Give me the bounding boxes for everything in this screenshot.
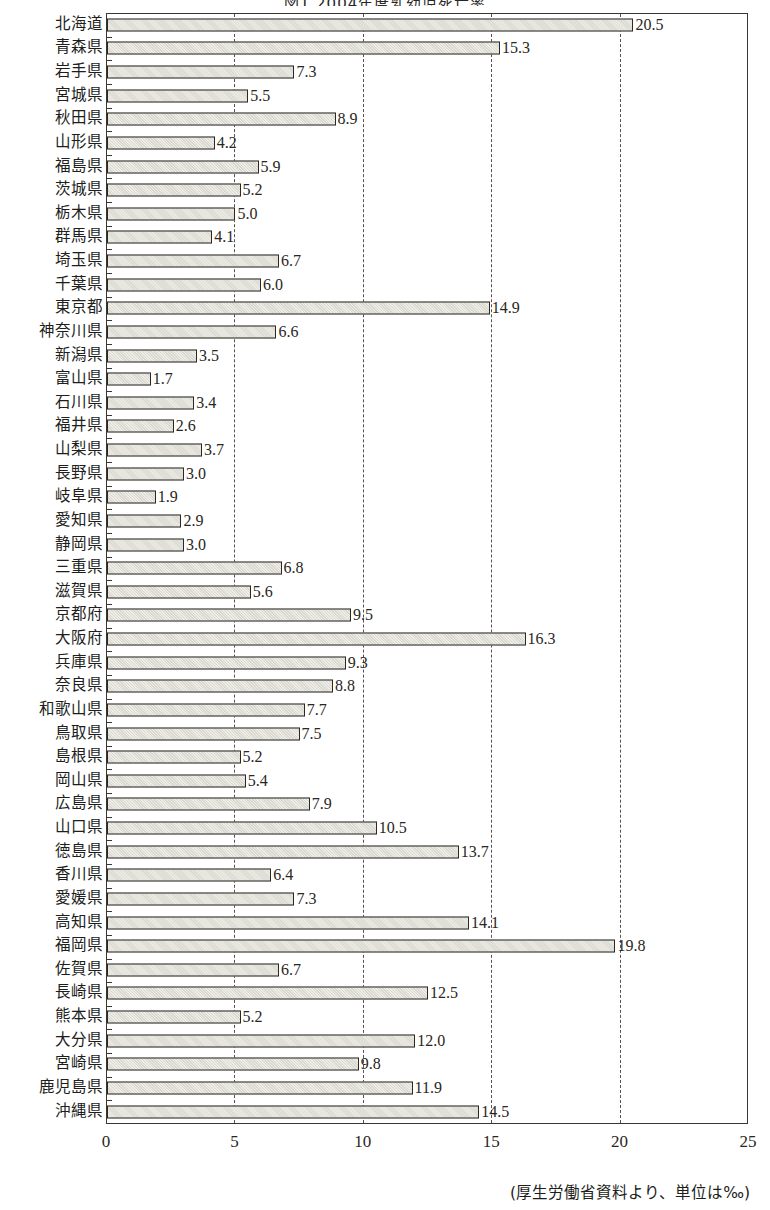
bar (107, 703, 305, 716)
category-label: 福島県 (55, 159, 103, 175)
category-label: 岩手県 (55, 64, 103, 80)
bar (107, 491, 156, 504)
table-row: 鳥取県7.5 (0, 722, 770, 746)
category-label: 岡山県 (55, 773, 103, 789)
axis-tick (106, 888, 112, 889)
table-row: 石川県3.4 (0, 391, 770, 415)
table-row: 岩手県7.3 (0, 60, 770, 84)
category-label: 静岡県 (55, 537, 103, 553)
bar-value-label: 6.4 (273, 867, 293, 883)
bar (107, 302, 490, 315)
category-label: 山梨県 (55, 442, 103, 458)
table-row: 神奈川県6.6 (0, 320, 770, 344)
chart-title: 図1 2004年度乳幼児死亡率 (0, 0, 770, 6)
table-row: 三重県6.8 (0, 556, 770, 580)
axis-tick (106, 1100, 112, 1101)
table-row: 愛媛県7.3 (0, 887, 770, 911)
bar-value-label: 5.2 (243, 182, 263, 198)
bar-value-label: 12.5 (430, 985, 458, 1001)
table-row: 滋賀県5.6 (0, 580, 770, 604)
table-row: 香川県6.4 (0, 864, 770, 888)
bar (107, 1105, 479, 1118)
bar (107, 1058, 359, 1071)
category-label: 東京都 (55, 301, 103, 317)
table-row: 静岡県3.0 (0, 533, 770, 557)
bar-value-label: 5.4 (248, 772, 268, 788)
bar-value-label: 19.8 (617, 938, 645, 954)
category-label: 熊本県 (55, 1009, 103, 1025)
bar-value-label: 13.7 (461, 843, 489, 859)
bar-value-label: 4.2 (217, 135, 237, 151)
table-row: 大分県12.0 (0, 1029, 770, 1053)
axis-tick (106, 273, 112, 274)
bar (107, 633, 526, 646)
axis-tick (106, 462, 112, 463)
bar-value-label: 3.4 (196, 394, 216, 410)
axis-tick (106, 226, 112, 227)
category-label: 長野県 (55, 466, 103, 482)
axis-tick (106, 131, 112, 132)
table-row: 千葉県6.0 (0, 273, 770, 297)
bar (107, 1034, 415, 1047)
table-row: 佐賀県6.7 (0, 958, 770, 982)
bar (107, 373, 151, 386)
category-label: 広島県 (55, 797, 103, 813)
bar-value-label: 9.8 (361, 1056, 381, 1072)
bar (107, 680, 333, 693)
bar-value-label: 3.0 (186, 536, 206, 552)
axis-tick (106, 604, 112, 605)
bar-value-label: 4.1 (214, 229, 234, 245)
bar (107, 42, 500, 55)
bar-value-label: 7.3 (296, 64, 316, 80)
category-label: 新潟県 (55, 348, 103, 364)
table-row: 広島県7.9 (0, 793, 770, 817)
category-label: 愛媛県 (55, 891, 103, 907)
table-row: 群馬県4.1 (0, 226, 770, 250)
table-row: 兵庫県9.3 (0, 651, 770, 675)
table-row: 熊本県5.2 (0, 1005, 770, 1029)
table-row: 岐阜県1.9 (0, 486, 770, 510)
bar-value-label: 2.9 (183, 513, 203, 529)
table-row: 埼玉県6.7 (0, 249, 770, 273)
table-row: 沖縄県14.5 (0, 1100, 770, 1124)
bar-value-label: 5.9 (261, 158, 281, 174)
bar-value-label: 7.3 (296, 891, 316, 907)
bar (107, 798, 310, 811)
bar (107, 1011, 241, 1024)
axis-tick (106, 320, 112, 321)
bar-value-label: 11.9 (415, 1080, 442, 1096)
axis-tick (106, 509, 112, 510)
bar (107, 774, 246, 787)
bar (107, 609, 351, 622)
table-row: 山形県4.2 (0, 131, 770, 155)
bar (107, 160, 259, 173)
axis-tick (106, 84, 112, 85)
axis-tick (106, 935, 112, 936)
axis-tick (106, 178, 112, 179)
category-label: 山口県 (55, 820, 103, 836)
bar-value-label: 1.7 (153, 371, 173, 387)
axis-tick (106, 155, 112, 156)
table-row: 山梨県3.7 (0, 438, 770, 462)
category-label: 宮城県 (55, 88, 103, 104)
table-row: 秋田県8.9 (0, 108, 770, 132)
axis-tick (106, 1077, 112, 1078)
category-label: 鹿児島県 (39, 1080, 103, 1096)
category-label: 大阪府 (55, 631, 103, 647)
table-row: 北海道20.5 (0, 13, 770, 37)
table-row: 鹿児島県11.9 (0, 1076, 770, 1100)
bar (107, 562, 282, 575)
category-label: 北海道 (55, 17, 103, 33)
category-label: 山形県 (55, 135, 103, 151)
bar (107, 1081, 413, 1094)
bar (107, 585, 251, 598)
category-label: 奈良県 (55, 679, 103, 695)
bar (107, 727, 300, 740)
bar-value-label: 14.9 (492, 300, 520, 316)
bar-value-label: 8.8 (335, 678, 355, 694)
category-label: 沖縄県 (55, 1104, 103, 1120)
category-label: 島根県 (55, 749, 103, 765)
table-row: 奈良県8.8 (0, 675, 770, 699)
category-label: 神奈川県 (39, 324, 103, 340)
x-tick-label: 20 (611, 1132, 628, 1152)
